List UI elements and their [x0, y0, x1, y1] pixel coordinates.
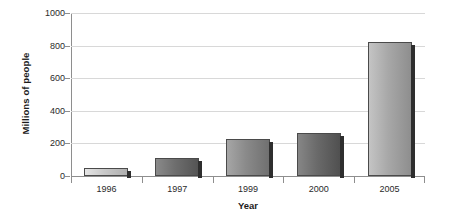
bar-shadow: [340, 136, 344, 178]
bar: [155, 158, 199, 176]
x-axis-title: Year: [71, 200, 425, 211]
bar: [226, 139, 270, 176]
bar-shadow: [411, 45, 415, 178]
x-tick-label: 1997: [167, 184, 187, 194]
x-tick-mark: [213, 176, 214, 183]
y-tick-mark: [65, 111, 70, 112]
bar-shadow: [269, 142, 273, 178]
plot-area: [71, 13, 425, 176]
x-tick-label: 2000: [309, 184, 329, 194]
y-tick-label: 600: [21, 73, 65, 83]
y-tick-label: 1000: [21, 8, 65, 18]
y-tick-label: 0: [21, 171, 65, 181]
bar-fill: [156, 159, 198, 175]
bar-chart: Millions of people 02004006008001000 199…: [0, 0, 452, 221]
y-axis-line: [71, 13, 72, 177]
bar-fill: [85, 169, 127, 175]
bar-fill: [298, 134, 340, 175]
bar-fill: [227, 140, 269, 175]
x-tick-mark: [354, 176, 355, 183]
x-tick-mark: [283, 176, 284, 183]
x-tick-label: 1999: [238, 184, 258, 194]
y-tick-mark: [65, 143, 70, 144]
gridline: [71, 13, 425, 14]
bar: [84, 168, 128, 176]
bar: [368, 42, 412, 176]
x-axis-labels: 19961997199920002005: [71, 184, 425, 200]
y-tick-mark: [65, 46, 70, 47]
y-tick-mark: [65, 176, 70, 177]
y-tick-label: 400: [21, 106, 65, 116]
x-tick-label: 1996: [96, 184, 116, 194]
x-axis-ticks: [71, 176, 425, 184]
y-tick-label: 200: [21, 138, 65, 148]
y-tick-mark: [65, 13, 70, 14]
bar-fill: [369, 43, 411, 175]
y-axis-ticks: 02004006008001000: [20, 13, 65, 176]
x-tick-label: 2005: [380, 184, 400, 194]
y-tick-mark: [65, 78, 70, 79]
x-tick-mark: [71, 176, 72, 183]
y-tick-label: 800: [21, 41, 65, 51]
x-tick-mark: [142, 176, 143, 183]
x-tick-mark: [424, 176, 425, 183]
bar: [297, 133, 341, 176]
